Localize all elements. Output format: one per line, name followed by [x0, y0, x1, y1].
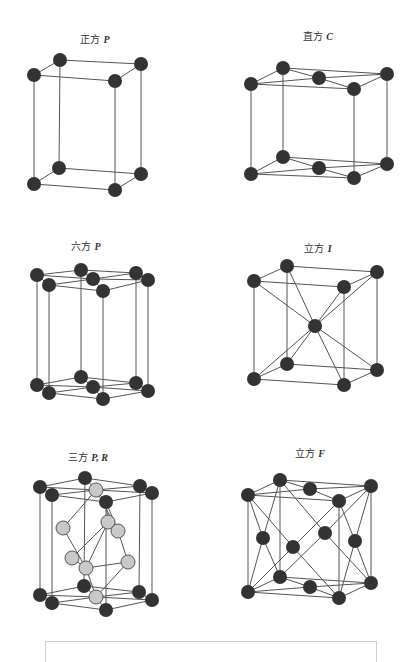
bond-line [86, 522, 108, 568]
bond-line [248, 489, 310, 495]
dark-atom [42, 386, 56, 400]
label-symbol: P [104, 34, 110, 45]
bond-line [339, 541, 355, 598]
dark-atom [303, 482, 317, 496]
dark-atom [78, 471, 92, 485]
dark-atom [247, 372, 261, 386]
dark-atom [370, 363, 384, 377]
bond-line [315, 326, 344, 385]
bond-line [325, 533, 371, 583]
dark-atom [380, 67, 394, 81]
dark-atom [332, 494, 346, 508]
dark-atom [33, 480, 47, 494]
dark-atom [99, 495, 113, 509]
label-system: 直方 [303, 31, 326, 42]
label-symbol: I [328, 243, 332, 254]
label-cubic-f: 立方 F [295, 445, 325, 460]
dark-atom [244, 167, 258, 181]
bond-line [315, 272, 377, 326]
dark-atom [312, 71, 326, 85]
dark-atom [30, 378, 44, 392]
bond-line [280, 480, 325, 533]
bond-line [106, 600, 152, 610]
dark-atom [276, 150, 290, 164]
label-system: 立方 [295, 448, 318, 459]
dark-atom [308, 319, 322, 333]
bond-line [34, 184, 115, 190]
light-atom [89, 590, 103, 604]
dark-atom [134, 57, 148, 71]
lattice-cubic-f [241, 473, 378, 605]
dark-atom [312, 161, 326, 175]
lattice-tetragonal-p [27, 53, 148, 197]
bond-line [93, 279, 148, 280]
dark-atom [74, 263, 88, 277]
dark-atom [96, 392, 110, 406]
dark-atom [347, 171, 361, 185]
bond-line [310, 486, 371, 489]
bond-line [283, 68, 387, 74]
dark-atom [364, 576, 378, 590]
bond-line [251, 84, 354, 89]
bond-line [287, 266, 377, 272]
dark-atom [74, 370, 88, 384]
lattice-trigonal-pr [33, 471, 159, 617]
dark-atom [364, 479, 378, 493]
light-atom [56, 521, 70, 535]
dark-atom [132, 585, 146, 599]
bond-line [106, 493, 152, 502]
dark-atom [280, 357, 294, 371]
dark-atom [347, 82, 361, 96]
dark-atom [241, 488, 255, 502]
light-atom [121, 555, 135, 569]
bond-line [251, 174, 354, 178]
dark-atom [99, 603, 113, 617]
dark-atom [141, 273, 155, 287]
bond-line [81, 270, 136, 273]
lattice-hexagonal-p [30, 263, 155, 406]
dark-atom [33, 588, 47, 602]
answer-box[interactable] [45, 641, 377, 662]
dark-atom [244, 77, 258, 91]
label-tetragonal-p: 正方 P [80, 31, 109, 46]
dark-atom [273, 473, 287, 487]
dark-atom [45, 596, 59, 610]
bond-line [63, 490, 96, 528]
bond-line [248, 495, 293, 547]
bond-line [139, 486, 140, 592]
dark-atom [30, 268, 44, 282]
bond-line [287, 364, 377, 370]
dark-atom [370, 265, 384, 279]
dark-atom [129, 376, 143, 390]
dark-atom [86, 272, 100, 286]
label-symbol: P, R [91, 452, 108, 463]
light-atom [65, 551, 79, 565]
bond-line [72, 522, 108, 558]
dark-atom [45, 488, 59, 502]
label-system: 六方 [71, 241, 94, 252]
label-system: 三方 [68, 452, 91, 463]
bond-line [254, 326, 315, 379]
label-orthorhombic-c: 直方 C [303, 28, 333, 43]
lattice-orthorhombic-c [244, 61, 394, 185]
dark-atom [42, 278, 56, 292]
dark-atom [141, 384, 155, 398]
dark-atom [129, 266, 143, 280]
dark-atom [108, 183, 122, 197]
dark-atom [276, 61, 290, 75]
dark-atom [273, 570, 287, 584]
dark-atom [348, 534, 362, 548]
label-trigonal-pr: 三方 P, R [68, 449, 108, 464]
bond-line [319, 164, 387, 168]
dark-atom [86, 380, 100, 394]
dark-atom [303, 580, 317, 594]
label-system: 立方 [304, 243, 327, 254]
dark-atom [27, 68, 41, 82]
dark-atom [145, 486, 159, 500]
dark-atom [286, 540, 300, 554]
bond-line [283, 157, 387, 164]
dark-atom [241, 585, 255, 599]
bond-line [49, 285, 103, 291]
bond-line [40, 595, 96, 597]
